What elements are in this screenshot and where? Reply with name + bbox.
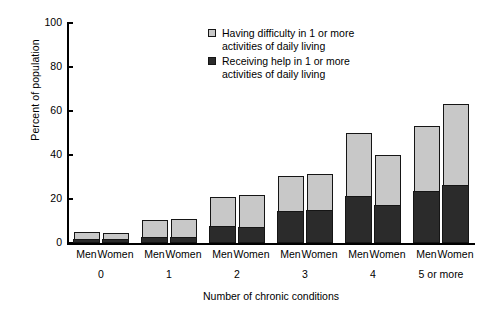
bar-segment-receiving-help bbox=[345, 196, 371, 243]
y-axis-tick-label: 20 bbox=[36, 193, 62, 204]
bar-men bbox=[74, 232, 100, 243]
bar-segment-receiving-help bbox=[442, 185, 468, 243]
chart-legend: Having difficulty in 1 or more activitie… bbox=[208, 27, 354, 83]
x-axis-title: Number of chronic conditions bbox=[67, 290, 475, 302]
bar-segment-receiving-help bbox=[374, 205, 400, 244]
bar-men bbox=[278, 176, 304, 243]
bar-men bbox=[210, 197, 236, 243]
legend-item-having-difficulty: Having difficulty in 1 or more activitie… bbox=[208, 27, 354, 52]
y-axis-tick-label: 80 bbox=[36, 61, 62, 72]
chart-container: Percent of population 020406080100 MenWo… bbox=[0, 0, 489, 312]
y-axis-tick-label: 40 bbox=[36, 149, 62, 160]
bar-men bbox=[414, 126, 440, 243]
bar-women bbox=[239, 195, 265, 243]
y-axis-tick-label: 100 bbox=[36, 17, 62, 28]
bar-men bbox=[346, 133, 372, 243]
y-axis-tick-label: 60 bbox=[36, 105, 62, 116]
bar-segment-receiving-help bbox=[73, 239, 99, 243]
bar-segment-receiving-help bbox=[170, 237, 196, 244]
legend-label: Receiving help in 1 or more activities o… bbox=[222, 55, 350, 80]
bar-segment-receiving-help bbox=[306, 210, 332, 243]
bar-women bbox=[443, 104, 469, 243]
x-axis-line bbox=[67, 243, 475, 245]
bar-women bbox=[171, 219, 197, 243]
bar-segment-receiving-help bbox=[102, 239, 128, 243]
series-label-women: Women bbox=[426, 248, 486, 260]
legend-swatch-dark-icon bbox=[208, 57, 216, 65]
bar-women bbox=[375, 155, 401, 243]
bar-women bbox=[103, 233, 129, 243]
bar-segment-receiving-help bbox=[238, 227, 264, 244]
bar-segment-receiving-help bbox=[209, 226, 235, 244]
legend-label: Having difficulty in 1 or more activitie… bbox=[222, 27, 354, 52]
bar-women bbox=[307, 174, 333, 243]
bar-segment-receiving-help bbox=[413, 191, 439, 243]
bar-segment-receiving-help bbox=[141, 237, 167, 244]
group-label: 5 or more bbox=[401, 268, 481, 280]
bar-men bbox=[142, 220, 168, 243]
bar-segment-receiving-help bbox=[277, 211, 303, 243]
legend-swatch-light-icon bbox=[208, 29, 216, 37]
y-axis-tick-label: 0 bbox=[36, 237, 62, 248]
legend-item-receiving-help: Receiving help in 1 or more activities o… bbox=[208, 55, 354, 80]
